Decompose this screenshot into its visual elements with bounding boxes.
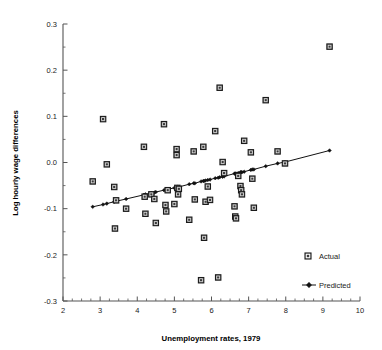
actual-data-point — [113, 198, 118, 203]
x-axis-tick-labels: 2345678910 — [61, 306, 364, 315]
actual-data-point — [175, 192, 180, 197]
actual-data-point — [232, 204, 237, 209]
y-tick-label: -0.3 — [44, 297, 57, 306]
actual-data-point — [141, 144, 146, 149]
y-axis-title: Log hourly wage differences — [11, 109, 20, 215]
scatter-plot-svg: 2345678910 -0.3-0.2-0.10.00.10.20.3 Unem… — [0, 0, 382, 350]
actual-data-point — [165, 188, 170, 193]
x-tick-label: 5 — [172, 306, 176, 315]
x-tick-label: 6 — [209, 306, 213, 315]
actual-data-point — [263, 97, 268, 102]
y-axis-tick-labels: -0.3-0.2-0.10.00.10.20.3 — [44, 20, 57, 306]
chart-legend: Actual Predicted — [302, 252, 351, 290]
actual-data-point — [233, 216, 238, 221]
actual-data-point — [90, 179, 95, 184]
legend-actual-marker-core — [307, 255, 309, 257]
actual-data-point — [239, 192, 244, 197]
actual-data-point — [191, 149, 196, 154]
actual-data-point — [251, 205, 256, 210]
x-tick-label: 7 — [247, 306, 251, 315]
actual-data-point — [220, 159, 225, 164]
legend-label-actual: Actual — [319, 252, 340, 261]
legend-label-predicted: Predicted — [319, 281, 351, 290]
actual-data-point — [112, 184, 117, 189]
y-axis-ticks — [63, 24, 68, 301]
actual-data-point — [143, 211, 148, 216]
actual-data-point — [153, 220, 158, 225]
actual-data-point — [201, 144, 206, 149]
predicted-data-point — [105, 202, 109, 206]
actual-data-point — [161, 121, 166, 126]
actual-data-point — [221, 170, 226, 175]
x-tick-label: 8 — [284, 306, 288, 315]
actual-data-point — [250, 176, 255, 181]
actual-data-point — [275, 149, 280, 154]
x-tick-label: 2 — [61, 306, 65, 315]
actual-data-point — [207, 197, 212, 202]
actual-data-point — [123, 206, 128, 211]
actual-data-point — [215, 275, 220, 280]
actual-data-point — [217, 85, 222, 90]
actual-data-point — [327, 44, 332, 49]
predicted-data-point — [276, 162, 280, 166]
x-axis-ticks — [63, 297, 360, 302]
actual-data-point — [236, 173, 241, 178]
actual-data-point — [201, 235, 206, 240]
y-tick-label: -0.1 — [44, 204, 57, 213]
actual-data-point — [164, 209, 169, 214]
actual-data-point — [104, 162, 109, 167]
predicted-data-point — [328, 149, 332, 153]
x-tick-label: 9 — [321, 306, 325, 315]
actual-data-point — [174, 146, 179, 151]
actual-data-point — [174, 152, 179, 157]
actual-data-point — [187, 217, 192, 222]
x-tick-label: 3 — [98, 306, 102, 315]
x-axis-title: Unemployment rates, 1979 — [162, 334, 261, 343]
legend-predicted-marker — [306, 282, 311, 288]
actual-data-point — [172, 201, 177, 206]
actual-data-point — [152, 196, 157, 201]
y-tick-label: 0.2 — [47, 66, 57, 75]
actual-data-point — [213, 128, 218, 133]
actual-data-point — [163, 202, 168, 207]
y-tick-label: 0.0 — [47, 158, 57, 167]
y-tick-label: 0.3 — [47, 20, 57, 29]
actual-data-point — [282, 161, 287, 166]
actual-data-point — [192, 197, 197, 202]
chart-container: 2345678910 -0.3-0.2-0.10.00.10.20.3 Unem… — [0, 0, 382, 350]
actual-data-point — [112, 226, 117, 231]
actual-data-point — [198, 278, 203, 283]
actual-data-point — [100, 116, 105, 121]
x-tick-label: 10 — [356, 306, 364, 315]
y-tick-label: 0.1 — [47, 112, 57, 121]
predicted-data-point — [124, 197, 128, 201]
predicted-data-point — [264, 164, 268, 168]
x-tick-label: 4 — [135, 306, 139, 315]
actual-series-markers — [90, 44, 332, 283]
predicted-data-point — [213, 176, 217, 180]
actual-data-point — [176, 186, 181, 191]
predicted-data-point — [187, 182, 191, 186]
actual-data-point — [142, 194, 147, 199]
actual-data-point — [248, 150, 253, 155]
y-tick-label: -0.2 — [44, 251, 57, 260]
predicted-data-point — [101, 203, 105, 207]
actual-data-point — [205, 184, 210, 189]
predicted-data-point — [91, 205, 95, 209]
actual-data-point — [241, 138, 246, 143]
